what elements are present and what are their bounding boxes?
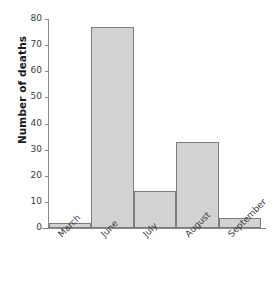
y-tick-label: 70	[31, 38, 42, 51]
bars-group	[49, 19, 261, 228]
y-tick-label: 50	[31, 90, 42, 103]
y-tick: 20	[0, 176, 49, 177]
y-tick: 0	[0, 228, 49, 229]
y-tick-label: 20	[31, 169, 42, 182]
y-tick: 30	[0, 150, 49, 151]
y-tick-mark	[45, 228, 49, 229]
y-tick: 40	[0, 124, 49, 125]
bar-june	[91, 27, 133, 228]
y-tick: 80	[0, 19, 49, 20]
y-tick: 60	[0, 71, 49, 72]
y-axis-title: Number of deaths	[16, 20, 28, 160]
y-tick-label: 40	[31, 117, 42, 130]
y-tick-label: 10	[31, 195, 42, 208]
y-tick-label: 30	[31, 143, 42, 156]
y-tick: 70	[0, 45, 49, 46]
y-tick-label: 80	[31, 12, 42, 25]
y-tick-label: 60	[31, 64, 42, 77]
y-tick: 50	[0, 97, 49, 98]
bar-chart: Number of deaths 01020304050607080 March…	[0, 0, 279, 284]
y-tick: 10	[0, 202, 49, 203]
y-tick-label: 0	[36, 221, 42, 234]
